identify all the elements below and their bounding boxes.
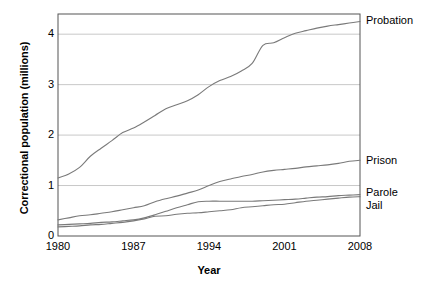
x-axis-title: Year [58,264,360,276]
series-label-probation: Probation [366,14,413,26]
axes-frame [58,14,360,236]
gridlines [58,34,360,185]
series-label-parole: Parole [366,186,398,198]
x-tick-label-1987: 1987 [109,240,159,252]
x-tick-label-2001: 2001 [260,240,310,252]
x-tick-label-1980: 1980 [33,240,83,252]
series-line-probation [58,22,360,178]
series-line-prison [58,160,360,220]
series-label-jail: Jail [366,199,383,211]
data-series-lines [58,22,360,227]
chart-container: Correctional population (millions) 01234… [0,0,429,290]
series-line-parole [58,195,360,225]
axes-border [58,14,360,236]
x-tick-label-1994: 1994 [184,240,234,252]
series-label-prison: Prison [366,154,397,166]
x-tick-label-2008: 2008 [335,240,385,252]
